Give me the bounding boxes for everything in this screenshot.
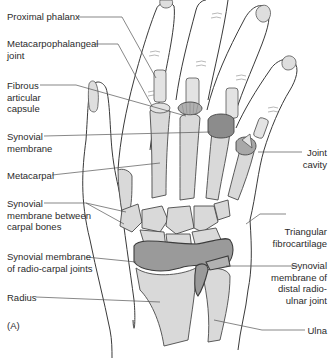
crease: [268, 107, 278, 112]
label-text: Synovial: [291, 260, 327, 271]
label-text: membrane of: [271, 272, 327, 283]
crease: [236, 75, 246, 80]
leader-ulna: [214, 320, 305, 330]
label-text: Fibrous: [7, 80, 39, 91]
index-mcp-joint: [150, 103, 170, 113]
label-text: capsule: [7, 103, 40, 114]
middle-metacarpal: [180, 114, 200, 201]
thumb-nail: [88, 81, 98, 112]
ring-proximal-phalanx: [226, 88, 238, 118]
label-text: Synovial: [7, 198, 43, 209]
label-text: of radio-carpal joints: [7, 263, 93, 274]
index-nail: [160, 0, 173, 8]
label-synovial-membrane: Synovialmembrane: [7, 131, 52, 154]
middle-finger-outline: [176, 0, 228, 100]
label-text: carpal bones: [7, 221, 61, 232]
label-metacarpal: Metacarpal: [7, 170, 54, 182]
radius-bone: [136, 268, 196, 346]
label-triangular-fibrocartilage: Triangularfibrocartilage: [273, 226, 327, 249]
label-metacarpophalangeal-joint: Metacarpophalangealjoint: [7, 38, 98, 61]
crease: [211, 13, 222, 18]
forearm-right-edge: [238, 220, 251, 350]
leader-radius: [36, 297, 160, 302]
leader-triangular-fibrocartilage: [246, 214, 286, 224]
ring-metacarpal: [206, 128, 230, 201]
carpal-trapezoid: [142, 206, 168, 232]
label-text: Proximal phalanx: [7, 11, 80, 22]
label-text: Radius: [7, 292, 37, 303]
label-text: Ulna: [307, 325, 327, 336]
hand-wrist-diagram: Proximal phalanx Metacarpophalangealjoin…: [0, 0, 334, 358]
crease: [149, 51, 160, 56]
little-proximal-phalanx: [253, 117, 269, 139]
ring-nail: [256, 5, 271, 22]
label-text: cavity: [303, 159, 327, 170]
label-text: joint: [7, 50, 24, 61]
label-text: membrane between: [7, 210, 91, 221]
label-fibrous-articular-capsule: Fibrousarticularcapsule: [7, 80, 41, 115]
label-text: Synovial membrane: [7, 251, 91, 262]
label-synovial-membrane-radiocarpal: Synovial membraneof radio-carpal joints: [7, 251, 93, 274]
label-ulna: Ulna: [307, 325, 327, 337]
label-text: Joint: [307, 147, 327, 158]
label-joint-cavity: Jointcavity: [303, 147, 327, 170]
label-proximal-phalanx: Proximal phalanx: [7, 11, 80, 23]
crease: [196, 61, 206, 66]
index-metacarpal: [150, 107, 170, 198]
label-text: distal radio-: [278, 283, 327, 294]
label-text: Synovial: [7, 131, 43, 142]
label-text: articular: [7, 92, 41, 103]
label-text: Metacarpal: [7, 170, 54, 181]
panel-label: (A): [7, 320, 20, 332]
thumb-metacarpal: [118, 169, 132, 212]
leader-mcp-joint: [95, 44, 152, 106]
label-synovial-membrane-distal-radioulnar: Synovialmembrane ofdistal radio-ulnar jo…: [271, 260, 327, 306]
label-radius: Radius: [7, 292, 37, 304]
ulna-bone: [202, 269, 230, 342]
carpal-capitate: [166, 206, 194, 234]
ring-mcp-synovial: [208, 114, 234, 138]
label-text: (A): [7, 320, 20, 331]
label-text: Metacarpophalangeal: [7, 38, 98, 49]
label-text: fibrocartilage: [273, 238, 327, 249]
label-text: Triangular: [285, 226, 327, 237]
index-proximal-phalanx: [154, 70, 166, 102]
little-nail: [282, 56, 296, 70]
leader-metacarpal: [52, 163, 160, 175]
label-text: ulnar joint: [286, 295, 327, 306]
label-text: membrane: [7, 143, 52, 154]
label-synovial-membrane-carpal: Synovialmembrane betweencarpal bones: [7, 198, 91, 233]
